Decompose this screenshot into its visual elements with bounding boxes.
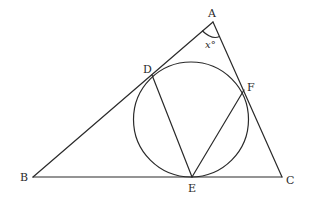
segment-de	[152, 75, 192, 177]
side-ac	[213, 22, 282, 177]
label-e: E	[188, 182, 196, 195]
label-c: C	[286, 174, 294, 187]
circle	[134, 62, 249, 177]
label-d: D	[143, 63, 152, 76]
label-b: B	[20, 171, 28, 184]
geometry-diagram: A B C D E F x°	[0, 0, 312, 203]
label-a: A	[207, 7, 217, 20]
segment-ef	[192, 90, 244, 177]
label-f: F	[247, 81, 255, 94]
side-ab	[33, 22, 213, 177]
angle-label-x: x°	[205, 39, 216, 50]
